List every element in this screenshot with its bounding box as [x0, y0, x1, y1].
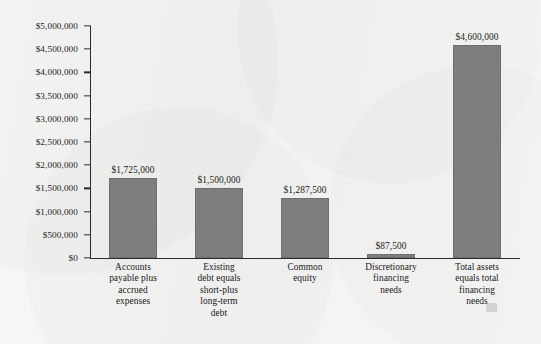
y-axis-tick-label: $5,000,000: [36, 21, 78, 31]
y-axis-tick-label: $1,500,000: [36, 183, 78, 193]
y-axis-tick-mark: [84, 72, 91, 73]
category-label-line: financing: [434, 285, 520, 296]
category-label-line: equals total: [434, 273, 520, 284]
category-label-line: Total assets: [434, 262, 520, 273]
bar-value-label: $4,600,000: [455, 32, 498, 42]
scan-artifact: [486, 303, 497, 312]
x-axis-category-label: Discretionaryfinancingneeds: [348, 262, 434, 296]
bar-value-label: $1,287,500: [283, 185, 326, 195]
category-label-line: equity: [262, 273, 348, 284]
y-axis-tick-mark: [84, 95, 91, 96]
category-label-line: Common: [262, 262, 348, 273]
plot-area: $1,725,000$1,500,000$1,287,500$87,500$4,…: [90, 26, 520, 258]
y-axis-tick-mark: [84, 257, 91, 258]
bar-group: $1,500,000: [176, 26, 262, 258]
y-axis-tick-mark: [84, 141, 91, 142]
bar-value-label: $1,725,000: [111, 165, 154, 175]
y-axis-tick-label: $4,500,000: [36, 44, 78, 54]
bar: [281, 198, 329, 258]
category-label-line: Accounts: [90, 262, 176, 273]
y-axis-tick-label: $500,000: [43, 230, 78, 240]
y-axis-tick-labels: $5,000,000$4,500,000$4,000,000$3,500,000…: [0, 0, 84, 344]
bar-chart: $5,000,000$4,500,000$4,000,000$3,500,000…: [0, 0, 541, 344]
category-label-line: expenses: [90, 296, 176, 307]
category-label-line: short-plus: [176, 285, 262, 296]
bar-group: $87,500: [348, 26, 434, 258]
bar-group: $4,600,000: [434, 26, 520, 258]
category-label-line: needs: [348, 285, 434, 296]
x-axis-category-label: Accountspayable plusaccruedexpenses: [90, 262, 176, 308]
category-label-line: Existing: [176, 262, 262, 273]
x-axis-line: [90, 258, 520, 259]
bar: [367, 254, 415, 258]
y-axis-tick-mark: [84, 234, 91, 235]
bar-value-label: $1,500,000: [197, 175, 240, 185]
x-axis-category-label: Commonequity: [262, 262, 348, 285]
y-axis-tick-label: $3,000,000: [36, 114, 78, 124]
y-axis-tick-label: $3,500,000: [36, 91, 78, 101]
category-label-line: long-term: [176, 296, 262, 307]
y-axis-tick-label: $4,000,000: [36, 67, 78, 77]
category-label-line: debt equals: [176, 273, 262, 284]
category-label-line: needs: [434, 296, 520, 307]
y-axis-tick-mark: [84, 165, 91, 166]
bar-value-label: $87,500: [375, 241, 406, 251]
x-axis-category-label: Existingdebt equalsshort-pluslong-termde…: [176, 262, 262, 319]
category-label-line: Discretionary: [348, 262, 434, 273]
bar: [195, 188, 243, 258]
y-axis-tick-label: $2,500,000: [36, 137, 78, 147]
y-axis-tick-label: $0: [69, 253, 78, 263]
y-axis-tick-label: $2,000,000: [36, 160, 78, 170]
bar: [453, 45, 501, 258]
x-axis-category-label: Total assetsequals totalfinancingneeds: [434, 262, 520, 308]
bar-group: $1,725,000: [90, 26, 176, 258]
y-axis-tick-label: $1,000,000: [36, 207, 78, 217]
bar-group: $1,287,500: [262, 26, 348, 258]
y-axis-tick-mark: [84, 188, 91, 189]
y-axis-tick-mark: [84, 211, 91, 212]
bar: [109, 178, 157, 258]
category-label-line: financing: [348, 273, 434, 284]
x-axis-category-labels: Accountspayable plusaccruedexpensesExist…: [90, 262, 520, 342]
category-label-line: payable plus: [90, 273, 176, 284]
y-axis-tick-mark: [84, 25, 91, 26]
category-label-line: debt: [176, 308, 262, 319]
y-axis-tick-mark: [84, 49, 91, 50]
category-label-line: accrued: [90, 285, 176, 296]
y-axis-tick-mark: [84, 118, 91, 119]
